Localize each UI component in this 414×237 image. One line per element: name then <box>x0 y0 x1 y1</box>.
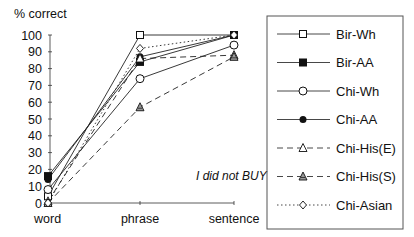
y-tick-label: 60 <box>28 96 42 110</box>
y-tick-label: 40 <box>28 129 42 143</box>
y-axis-label: % correct <box>14 7 67 21</box>
y-tick-label: 50 <box>28 113 42 127</box>
diamond-open-marker-icon <box>137 44 144 52</box>
circle-open-marker-icon <box>44 186 52 194</box>
legend-item: Bir-AA <box>277 55 374 70</box>
circle-open-marker-icon <box>299 87 307 95</box>
annotation: I did not BUY <box>196 169 268 183</box>
diamond-open-marker-icon <box>300 201 307 209</box>
legend-item: Chi-His(S) <box>277 169 396 184</box>
y-tick-label: 10 <box>28 180 42 194</box>
legend-label: Chi-AA <box>336 112 378 127</box>
legend-item: Chi-Asian <box>277 198 392 213</box>
x-axis: wordphrasesentence <box>33 201 259 226</box>
legend-label: Chi-His(S) <box>336 169 396 184</box>
square-filled-marker-icon <box>300 59 307 66</box>
y-tick-label: 30 <box>28 146 42 160</box>
triangle-open-marker-icon <box>299 144 307 152</box>
legend-label: Chi-His(E) <box>336 141 396 156</box>
line-chart: % correct 0102030405060708090100 wordphr… <box>0 0 414 237</box>
x-tick-label: phrase <box>121 212 159 226</box>
x-tick-label: word <box>33 212 61 226</box>
circle-open-marker-icon <box>230 41 238 49</box>
legend-item: Bir-Wh <box>277 27 376 42</box>
y-tick-label: 0 <box>35 197 42 211</box>
series-chi-wh <box>48 45 234 189</box>
triangle-hatched-marker-icon <box>299 172 307 180</box>
legend: Bir-WhBir-AAChi-WhChi-AAChi-His(E)Chi-Hi… <box>267 16 403 229</box>
x-tick-label: sentence <box>209 212 260 226</box>
legend-label: Bir-Wh <box>336 27 376 42</box>
circle-filled-marker-icon <box>45 176 52 183</box>
circle-open-marker-icon <box>136 75 144 83</box>
legend-label: Chi-Wh <box>336 84 379 99</box>
y-tick-label: 20 <box>28 163 42 177</box>
y-tick-label: 70 <box>28 79 42 93</box>
legend-label: Bir-AA <box>336 55 374 70</box>
legend-item: Chi-Wh <box>277 84 379 99</box>
y-tick-label: 90 <box>28 45 42 59</box>
legend-label: Chi-Asian <box>336 198 392 213</box>
legend-item: Chi-His(E) <box>277 141 396 156</box>
circle-filled-marker-icon <box>300 116 307 123</box>
square-open-marker-icon <box>300 31 307 38</box>
y-tick-label: 80 <box>28 62 42 76</box>
y-tick-label: 100 <box>21 29 42 43</box>
triangle-hatched-marker-icon <box>136 103 144 111</box>
square-open-marker-icon <box>137 32 144 39</box>
y-axis: 0102030405060708090100 <box>21 29 52 211</box>
legend-item: Chi-AA <box>277 112 378 127</box>
